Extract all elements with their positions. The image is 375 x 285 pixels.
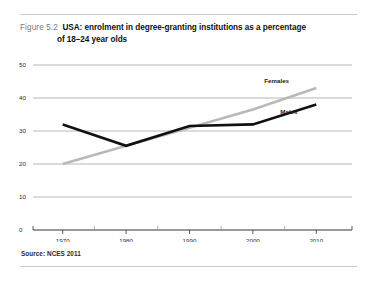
x-tick-label-2000: 2000: [246, 237, 260, 243]
y-tick-label-10: 10: [19, 193, 26, 200]
y-tick-label-50: 50: [19, 61, 26, 68]
series-label-females: Females: [264, 77, 289, 84]
line-chart-svg: 01020304050 19701980199020002010 Females…: [0, 52, 375, 242]
x-axis-tick-labels: 19701980199020002010: [56, 237, 324, 243]
x-tick-label-1970: 1970: [56, 237, 70, 243]
series-label-males: Males: [280, 108, 298, 115]
x-tick-label-2010: 2010: [309, 237, 323, 243]
chart-plot-area: 01020304050 19701980199020002010 Females…: [0, 52, 375, 242]
caption-first-line: Figure 5.2 USA: enrolment in degree-gran…: [20, 22, 360, 34]
figure-caption: Figure 5.2 USA: enrolment in degree-gran…: [20, 22, 360, 45]
y-tick-label-40: 40: [19, 94, 26, 101]
series-line-males: [63, 105, 317, 146]
y-tick-label-0: 0: [19, 226, 23, 233]
figure-container: Figure 5.2 USA: enrolment in degree-gran…: [0, 0, 375, 285]
gridlines-group: [33, 65, 352, 230]
figure-title-line-1: USA: enrolment in degree-granting instit…: [62, 23, 305, 32]
y-tick-label-20: 20: [19, 160, 26, 167]
y-axis-tick-labels: 01020304050: [19, 61, 26, 233]
x-axis: [33, 226, 352, 234]
figure-number: Figure 5.2: [20, 23, 58, 32]
data-series-group: [63, 88, 317, 164]
y-tick-label-30: 30: [19, 127, 26, 134]
x-tick-label-1990: 1990: [183, 237, 197, 243]
source-note: Source: NCES 2011: [21, 250, 81, 257]
x-tick-label-1980: 1980: [119, 237, 133, 243]
caption-second-line: of 18–24 year olds: [20, 34, 360, 46]
figure-title-line-2: of 18–24 year olds: [57, 35, 127, 44]
top-divider-rule: [20, 14, 357, 15]
bottom-divider-rule: [20, 266, 357, 267]
